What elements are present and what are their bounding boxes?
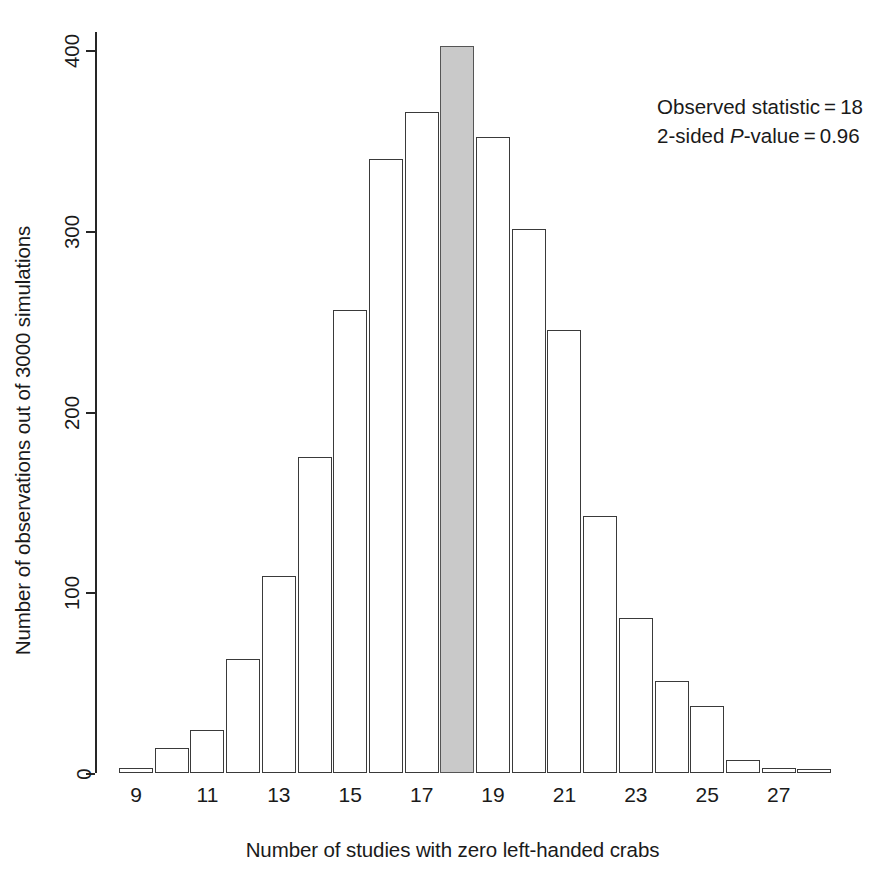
bar	[726, 760, 760, 773]
p-value-text: 2-sided P-value = 0.96	[657, 121, 863, 150]
y-tick: 300	[95, 231, 104, 233]
y-tick: 100	[95, 592, 104, 594]
x-tick-label: 23	[624, 783, 647, 807]
bar	[226, 659, 260, 773]
y-tick-mark	[86, 592, 95, 594]
bar	[512, 229, 546, 773]
bar	[333, 310, 367, 773]
statistics-annotation: Observed statistic = 18 2-sided P-value …	[657, 92, 863, 150]
bar	[476, 137, 510, 773]
y-tick-label: 100	[60, 576, 84, 610]
histogram-figure: Number of observations out of 3000 simul…	[0, 0, 889, 881]
x-tick-label: 27	[767, 783, 790, 807]
y-tick: 200	[95, 412, 104, 414]
x-tick-label: 11	[197, 783, 219, 807]
x-tick-label: 17	[410, 783, 433, 807]
x-tick-label: 25	[696, 783, 719, 807]
bar	[190, 730, 224, 773]
x-axis-ticks: 9111315171921232527	[119, 773, 833, 813]
y-axis-title: Number of observations out of 3000 simul…	[0, 0, 46, 881]
bar	[619, 618, 653, 773]
p-symbol: P	[730, 124, 744, 147]
y-tick-label: 400	[60, 34, 84, 68]
p-value-suffix: -value = 0.96	[744, 124, 860, 147]
y-tick-mark	[86, 50, 95, 52]
bar	[583, 516, 617, 773]
observed-statistic-text: Observed statistic = 18	[657, 92, 863, 121]
x-tick-label: 21	[553, 783, 576, 807]
p-value-prefix: 2-sided	[657, 124, 730, 147]
bar	[262, 576, 296, 773]
y-tick-mark	[86, 231, 95, 233]
x-tick-label: 19	[481, 783, 504, 807]
bar	[298, 457, 332, 773]
bar	[405, 112, 439, 773]
bar	[155, 748, 189, 773]
x-tick-label: 15	[339, 783, 362, 807]
y-tick: 400	[95, 50, 104, 52]
bar	[547, 330, 581, 773]
x-tick-label: 13	[267, 783, 290, 807]
y-tick: 0	[95, 773, 104, 775]
y-tick-label: 200	[60, 395, 84, 429]
bar	[369, 159, 403, 773]
bar-highlighted	[440, 46, 474, 773]
x-tick-label: 9	[130, 783, 142, 807]
bar	[655, 681, 689, 773]
y-tick-label: 300	[60, 215, 84, 249]
y-tick-label: 0	[71, 768, 95, 779]
y-tick-mark	[86, 412, 95, 414]
y-axis-line	[95, 32, 97, 773]
bar	[690, 706, 724, 773]
x-axis-title: Number of studies with zero left-handed …	[95, 838, 810, 862]
